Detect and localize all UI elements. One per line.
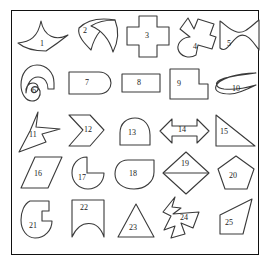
shape-label-11: 11 [29, 131, 37, 139]
shape-item-12: 12 [66, 112, 116, 150]
shape-item-20: 20 [215, 153, 257, 193]
shape-label-7: 7 [85, 79, 89, 87]
shape-label-5: 5 [227, 40, 231, 48]
shape-label-17: 17 [78, 174, 86, 182]
shape-item-17: 17 [69, 154, 107, 192]
shape-item-14: 14 [157, 115, 212, 147]
shape-item-10: 10 [212, 69, 260, 99]
shape-label-6: 6 [32, 87, 36, 95]
shape-item-7: 7 [66, 69, 114, 97]
shape-label-4: 4 [193, 43, 197, 51]
shape-label-9: 9 [177, 80, 181, 88]
shape-item-22: 22 [68, 197, 108, 241]
shape-item-8: 8 [119, 71, 163, 95]
shape-label-15: 15 [220, 128, 228, 136]
shape-outline-8 [122, 74, 160, 92]
shape-label-2: 2 [83, 27, 87, 35]
shape-item-4: 4 [172, 15, 220, 60]
shape-item-9: 9 [167, 66, 211, 102]
shape-outline-6 [21, 65, 54, 101]
shape-label-16: 16 [34, 170, 42, 178]
shape-item-5: 5 [217, 16, 262, 59]
shape-label-19: 19 [181, 160, 189, 168]
shape-grid: 1 2 3 4 5 [12, 11, 258, 254]
shape-item-15: 15 [212, 112, 258, 150]
shape-item-11: 11 [16, 109, 64, 155]
shape-item-3: 3 [124, 13, 172, 60]
shape-label-14: 14 [178, 126, 186, 134]
shape-label-22: 22 [80, 204, 88, 212]
shape-label-23: 23 [129, 224, 137, 232]
shape-item-1: 1 [16, 17, 70, 57]
shape-label-3: 3 [145, 32, 149, 40]
shape-item-2: 2 [69, 16, 121, 58]
shape-outline-7 [69, 72, 111, 94]
shape-outline-22 [72, 200, 104, 237]
shape-label-10: 10 [232, 85, 240, 93]
shape-item-23: 23 [115, 201, 157, 241]
shape-label-21: 21 [29, 222, 37, 230]
figure-frame: 1 2 3 4 5 [11, 10, 259, 255]
shape-label-8: 8 [137, 79, 141, 87]
shape-outline-4 [178, 18, 216, 57]
shape-label-24: 24 [180, 214, 188, 222]
shape-label-18: 18 [129, 170, 137, 178]
shape-item-24: 24 [159, 194, 209, 242]
shape-outline-25 [220, 199, 252, 234]
shape-outline-5 [220, 20, 259, 50]
shape-label-1: 1 [40, 40, 44, 48]
shape-outline-11 [19, 112, 60, 152]
shape-outline-21 [21, 201, 52, 238]
shape-item-25: 25 [210, 196, 258, 241]
shape-label-20: 20 [229, 172, 237, 180]
shape-outline-17 [72, 157, 104, 189]
shape-outline-23 [118, 204, 154, 237]
shape-label-13: 13 [128, 129, 136, 137]
shape-item-19: 19 [160, 149, 212, 197]
shape-item-21: 21 [18, 198, 60, 241]
shape-item-6: 6 [18, 61, 63, 105]
shape-outline-9 [170, 69, 208, 99]
shape-label-12: 12 [84, 126, 92, 134]
shape-item-18: 18 [112, 157, 159, 192]
shape-item-16: 16 [18, 154, 66, 192]
shape-label-25: 25 [225, 219, 233, 227]
shape-item-13: 13 [117, 115, 155, 148]
